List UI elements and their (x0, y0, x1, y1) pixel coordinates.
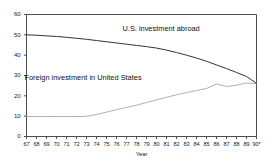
y-axis-tick-label: 50 (5, 32, 21, 38)
series-label-us-investment-abroad: U.S. investment abroad (123, 25, 200, 33)
x-axis-tick-label: 90* (250, 141, 264, 147)
y-axis-tick-label: 10 (5, 113, 21, 119)
y-axis-tick-label: 30 (5, 72, 21, 78)
series-line-1 (27, 83, 257, 117)
series-label-foreign-investment-in-us: Foreign investment in United States (25, 74, 142, 82)
y-axis-tick-label: 60 (5, 11, 21, 17)
y-axis-tick-label: 40 (5, 52, 21, 58)
chart-figure: 0102030405060 67686970717273747576777879… (0, 0, 277, 167)
y-axis-tick-label: 0 (5, 133, 21, 139)
y-axis-tick-label: 20 (5, 93, 21, 99)
x-axis-title: Year (112, 151, 172, 158)
